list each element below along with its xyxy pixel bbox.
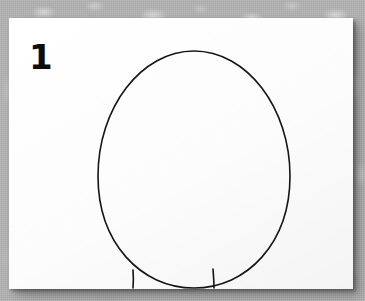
egg-outline-path — [98, 51, 290, 288]
paper-sheet: 1 — [9, 18, 353, 289]
drawing-svg — [9, 18, 353, 289]
line-drawing — [9, 18, 353, 289]
drawing-photo-scene: 1 — [0, 0, 365, 301]
right-leg-path — [213, 269, 214, 288]
